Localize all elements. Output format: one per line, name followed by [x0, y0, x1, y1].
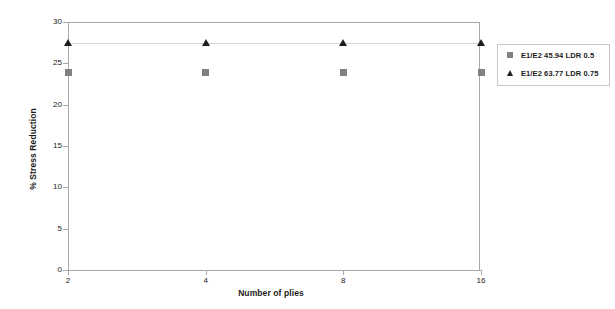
x-axis-tick-label: 4 — [186, 276, 226, 285]
y-axis-tick-label: 15 — [22, 141, 62, 150]
legend-entry: E1/E2 63.77 LDR 0.75 — [504, 66, 598, 80]
square-marker-icon — [504, 52, 516, 58]
data-point-marker — [477, 39, 485, 46]
y-axis-line — [68, 22, 69, 271]
y-axis-tick-label: 25 — [22, 58, 62, 67]
y-axis-tick-label: 20 — [22, 100, 62, 109]
data-point-marker — [478, 69, 485, 76]
x-axis-tick-label: 2 — [48, 276, 88, 285]
y-axis-tick — [63, 187, 68, 188]
y-axis-tick — [63, 105, 68, 106]
y-axis-tick-label: 10 — [22, 182, 62, 191]
x-axis-tick — [68, 270, 69, 275]
legend-label: E1/E2 45.94 LDR 0.5 — [521, 51, 594, 60]
y-axis-tick — [63, 22, 68, 23]
y-axis-tick — [63, 229, 68, 230]
x-axis-tick-label: 16 — [461, 276, 501, 285]
y-axis-tick-label: 30 — [22, 17, 62, 26]
chart-legend: E1/E2 45.94 LDR 0.5 E1/E2 63.77 LDR 0.75 — [497, 44, 610, 86]
x-axis-tick — [481, 270, 482, 275]
data-point-marker — [339, 39, 347, 46]
stress-reduction-scatter-chart: % Stress Reduction 05101520253024816 Num… — [0, 0, 615, 309]
x-axis-tick — [343, 270, 344, 275]
x-axis-line — [68, 270, 481, 271]
x-axis-tick-label: 8 — [323, 276, 363, 285]
x-axis-tick — [206, 270, 207, 275]
triangle-marker-icon — [504, 70, 516, 76]
data-point-marker — [202, 39, 210, 46]
x-axis-title: Number of plies — [62, 288, 480, 298]
data-point-marker — [64, 39, 72, 46]
data-point-marker — [202, 69, 209, 76]
y-axis-tick-label: 5 — [22, 224, 62, 233]
y-axis-tick-label: 0 — [22, 265, 62, 274]
series-line — [68, 43, 481, 44]
legend-entry: E1/E2 45.94 LDR 0.5 — [504, 48, 594, 62]
y-axis-tick — [63, 63, 68, 64]
data-point-marker — [65, 69, 72, 76]
data-point-marker — [340, 69, 347, 76]
plot-area — [68, 22, 480, 270]
y-axis-tick — [63, 146, 68, 147]
legend-label: E1/E2 63.77 LDR 0.75 — [521, 69, 598, 78]
